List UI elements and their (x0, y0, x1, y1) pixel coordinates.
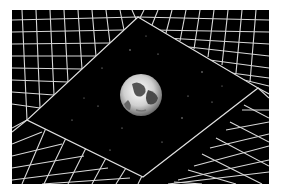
space-grid-illustration (12, 10, 269, 184)
wireframe-tunnel (12, 10, 269, 184)
earth (120, 74, 162, 116)
